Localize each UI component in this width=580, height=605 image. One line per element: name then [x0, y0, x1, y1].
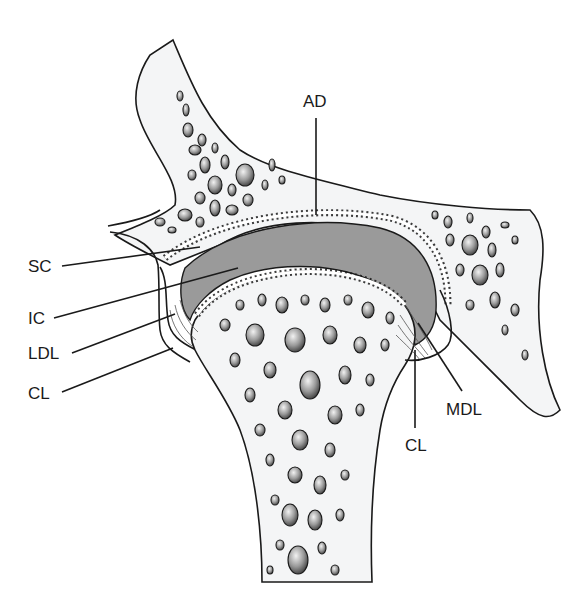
- label-ldl: LDL: [28, 344, 59, 363]
- label-mdl: MDL: [446, 400, 482, 419]
- label-ad: AD: [303, 92, 327, 111]
- leader-ldl: [72, 314, 175, 353]
- leader-cl-left: [62, 348, 173, 392]
- joint-diagram: AD SC IC LDL CL MDL CL: [0, 0, 580, 605]
- label-cl-left: CL: [28, 384, 50, 403]
- label-cl-right: CL: [405, 436, 427, 455]
- label-sc: SC: [28, 257, 52, 276]
- label-ic: IC: [28, 309, 45, 328]
- lower-bone: [191, 271, 415, 582]
